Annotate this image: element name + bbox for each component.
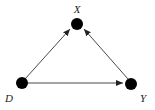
dag-diagram: X D Y [0,0,155,110]
label-y: Y [140,92,148,104]
node-d [16,77,28,89]
node-y [125,78,137,90]
edge-d-to-x [25,29,70,79]
edge-y-to-x [84,29,128,79]
label-d: D [4,92,13,104]
node-x [71,18,83,30]
label-x: X [73,3,82,15]
